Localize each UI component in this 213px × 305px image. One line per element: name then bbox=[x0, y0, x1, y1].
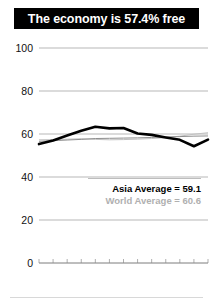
gridlines-group bbox=[39, 48, 208, 263]
legend: Asia Average = 59.1 World Average = 60.6 bbox=[88, 178, 201, 207]
y-tick-label: 0 bbox=[27, 257, 33, 269]
page-title: The economy is 57.4% free bbox=[28, 12, 185, 26]
plot-area: 020406080100 19952007 bbox=[0, 35, 213, 270]
x-axis-labels-group: 19952007 bbox=[40, 269, 209, 270]
legend-divider bbox=[88, 178, 201, 179]
x-tick-label: 2007 bbox=[186, 269, 210, 270]
y-tick-label: 20 bbox=[21, 214, 33, 226]
data-series-group bbox=[39, 127, 208, 147]
legend-world-average: World Average = 60.6 bbox=[88, 195, 201, 207]
legend-asia-average: Asia Average = 59.1 bbox=[88, 183, 201, 195]
chart-svg: 020406080100 19952007 bbox=[0, 35, 213, 270]
x-tick-label: 1995 bbox=[40, 269, 64, 270]
y-tick-label: 100 bbox=[15, 42, 33, 54]
x-tickmarks-group bbox=[39, 259, 208, 263]
y-tick-label: 60 bbox=[21, 128, 33, 140]
y-axis-labels-group: 020406080100 bbox=[15, 42, 33, 269]
y-tick-label: 80 bbox=[21, 85, 33, 97]
economic-freedom-chart-card: The economy is 57.4% free 020406080100 1… bbox=[0, 0, 213, 305]
chart-title-banner: The economy is 57.4% free bbox=[14, 8, 199, 29]
y-tick-label: 40 bbox=[21, 171, 33, 183]
bottom-divider bbox=[10, 297, 203, 298]
